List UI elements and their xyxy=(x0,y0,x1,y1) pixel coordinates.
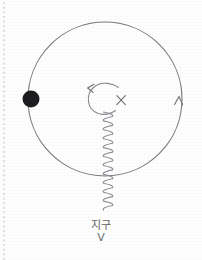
orbit-circle xyxy=(28,22,182,176)
vee-label: V xyxy=(0,232,202,244)
satellite-dot xyxy=(23,91,40,108)
rotation-curved-arrow xyxy=(88,83,119,114)
x-mark xyxy=(117,96,126,105)
signal-wave xyxy=(103,112,113,210)
notebook-page: 지구 V xyxy=(0,0,202,260)
